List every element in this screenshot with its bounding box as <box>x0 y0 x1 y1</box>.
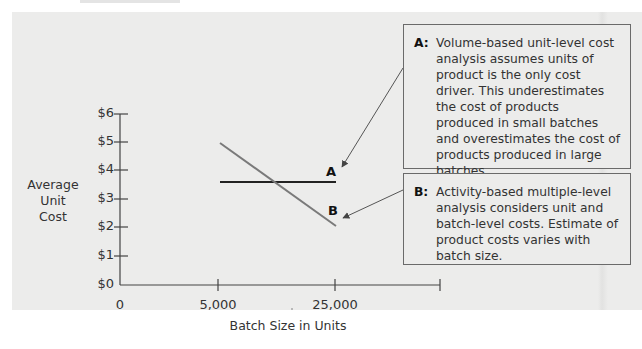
annotation-a: A: Volume-based unit-level cost analysis… <box>403 24 631 169</box>
callout-arrow-b <box>343 190 403 218</box>
y-tick-label: $6 <box>84 105 114 120</box>
series-b-line <box>220 143 336 226</box>
y-tick-label: $5 <box>84 133 114 148</box>
annotation-b-tag: B: <box>414 184 428 200</box>
point-label-a: A <box>326 164 336 179</box>
y-tick-label: $1 <box>84 247 114 262</box>
y-tick-label: $2 <box>84 218 114 233</box>
y-axis-label-line: Cost <box>18 209 88 225</box>
stray-dot <box>291 308 293 310</box>
annotation-b-text: Activity-based multiple-level analysis c… <box>436 185 618 263</box>
y-tick-label: $3 <box>84 190 114 205</box>
y-axis-label: Average Unit Cost <box>18 177 88 225</box>
x-tick-label: 5,000 <box>188 297 248 312</box>
y-axis-label-line: Average <box>18 177 88 193</box>
x-axis-label: Batch Size in Units <box>208 318 368 333</box>
annotation-b: B: Activity-based multiple-level analysi… <box>403 173 631 265</box>
y-axis-ticks <box>114 114 128 256</box>
x-tick-label: 25,000 <box>302 297 368 312</box>
y-axis-label-line: Unit <box>18 193 88 209</box>
point-label-b: B <box>328 203 338 218</box>
annotation-a-tag: A: <box>414 35 429 51</box>
annotation-a-text: Volume-based unit-level cost analysis as… <box>436 36 620 178</box>
y-tick-label: $4 <box>84 161 114 176</box>
x-origin-label: 0 <box>112 297 128 312</box>
y-tick-label: $0 <box>84 276 114 291</box>
callout-arrow-a <box>342 68 403 167</box>
